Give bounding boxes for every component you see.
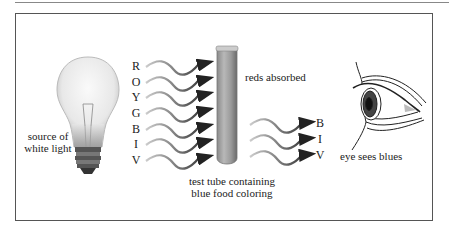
spectrum-out-label-v: V: [314, 148, 326, 163]
eye-label: eye sees blues: [340, 150, 402, 162]
source-label-line1: source of: [20, 130, 76, 142]
spectrum-label-y: Y: [130, 90, 142, 105]
test-tube-icon: [216, 46, 238, 164]
reds-absorbed-label: reds absorbed: [245, 71, 306, 83]
spectrum-label-v: V: [130, 153, 142, 168]
source-label-line2: white light: [20, 142, 76, 154]
spectrum-label-o: O: [130, 75, 142, 90]
spectrum-label-b: B: [130, 122, 142, 137]
spectrum-out-label-b: B: [314, 116, 326, 131]
spectrum-label-g: G: [130, 106, 142, 121]
source-label: source of white light: [20, 130, 76, 154]
tube-caption: test tube containing blue food coloring: [180, 175, 284, 199]
spectrum-label-r: R: [130, 59, 142, 74]
eye-icon: [352, 62, 426, 150]
tube-caption-line2: blue food coloring: [180, 187, 284, 199]
light-bulb-icon: [57, 57, 119, 174]
spectrum-label-i: I: [130, 137, 142, 152]
incoming-waves: [146, 61, 210, 168]
tube-caption-line1: test tube containing: [180, 175, 284, 187]
spectrum-out-label-i: I: [314, 132, 326, 147]
outgoing-waves: [250, 119, 312, 164]
